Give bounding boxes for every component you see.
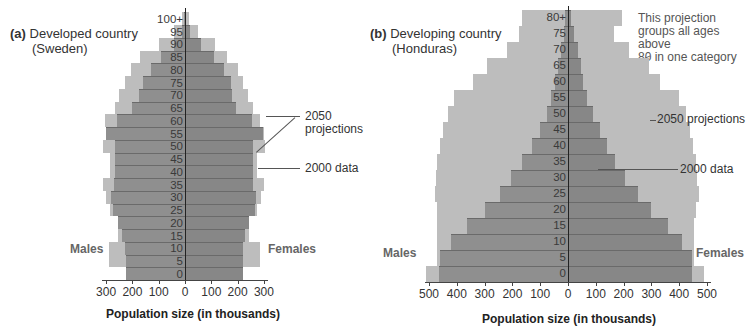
x-tick (159, 280, 160, 284)
age-label: 55 (153, 128, 183, 140)
leader-line-2050 (650, 120, 656, 121)
x-tick (707, 282, 708, 286)
age-label: 30 (153, 191, 183, 203)
bar-2000-female (185, 140, 253, 153)
panel-honduras: (b) Developing country (Honduras) This p… (380, 0, 752, 330)
age-label: 80+ (536, 11, 566, 23)
males-label: Males (70, 242, 103, 256)
age-label: 25 (536, 187, 566, 199)
bar-2000-female (185, 204, 255, 217)
panel-sweden: (a) Developed country (Sweden) 051015202… (0, 0, 380, 330)
bar-2000-female (185, 191, 256, 204)
age-label: 70 (153, 89, 183, 101)
x-tick (132, 280, 133, 284)
age-label: 40 (153, 166, 183, 178)
males-label: Males (383, 246, 416, 260)
bar-2000-female (185, 178, 253, 191)
age-label: 30 (536, 171, 566, 183)
age-label: 60 (153, 115, 183, 127)
bar-2000-female (185, 153, 253, 166)
bar-2000-female (568, 122, 600, 138)
x-tick-label: 500 (692, 287, 722, 301)
x-axis-label: Population size (in thousands) (482, 312, 656, 326)
bar-2000-female (568, 234, 682, 250)
bar-2000-female (185, 89, 232, 102)
bar-2000-female (185, 127, 263, 140)
leader-line-2000 (598, 169, 678, 170)
age-label: 55 (536, 91, 566, 103)
bar-2000-female (185, 242, 243, 255)
age-label: 80 (153, 64, 183, 76)
x-tick-label: 300 (470, 287, 500, 301)
bar-2000-female (568, 90, 587, 106)
bar-2000-female (568, 266, 692, 282)
age-label: 70 (536, 43, 566, 55)
annotation-2000: 2000 data (680, 163, 733, 176)
age-label: 65 (536, 59, 566, 71)
x-tick (238, 280, 239, 284)
annotation-2000: 2000 data (305, 162, 358, 175)
age-label: 5 (536, 251, 566, 263)
x-tick-label: 200 (609, 287, 639, 301)
bar-2000-female (568, 106, 593, 122)
x-tick (596, 282, 597, 286)
x-tick (429, 282, 430, 286)
females-label: Females (696, 246, 744, 260)
bar-2000-female (185, 255, 243, 268)
x-tick (651, 282, 652, 286)
bar-2000-female (568, 58, 581, 74)
age-label: 15 (153, 230, 183, 242)
x-tick (485, 282, 486, 286)
bar-2000-female (185, 229, 245, 242)
x-tick-label: 200 (497, 287, 527, 301)
bar-2050-female (568, 26, 614, 42)
age-label: 45 (153, 153, 183, 165)
x-tick-label: 500 (414, 287, 444, 301)
x-tick (264, 280, 265, 284)
center-axis-line (568, 6, 569, 282)
age-label: 90 (153, 38, 183, 50)
age-label: 95 (153, 26, 183, 38)
age-label: 50 (153, 140, 183, 152)
age-label: 50 (536, 107, 566, 119)
females-label: Females (268, 242, 316, 256)
bar-2000-female (568, 154, 615, 170)
bar-2000-female (185, 38, 201, 51)
annotation-2050-line1: 2050 (305, 109, 332, 123)
x-tick (540, 282, 541, 286)
bar-2000-female (185, 216, 249, 229)
center-axis-line (185, 8, 186, 280)
annotation-2050: 2050 projections (305, 110, 363, 136)
age-label: 25 (153, 204, 183, 216)
x-tick-label: 0 (553, 287, 583, 301)
x-tick-label: 100 (525, 287, 555, 301)
age-label: 35 (536, 155, 566, 167)
x-tick-label: 300 (249, 285, 279, 299)
x-tick (457, 282, 458, 286)
age-label: 60 (536, 75, 566, 87)
x-tick (679, 282, 680, 286)
x-tick (106, 280, 107, 284)
age-label: 45 (536, 123, 566, 135)
bar-2000-female (185, 114, 252, 127)
age-label: 0 (536, 267, 566, 279)
bar-2000-female (568, 170, 625, 186)
age-label: 20 (153, 217, 183, 229)
leader-line-2000 (258, 168, 300, 169)
x-axis-label: Population size (in thousands) (106, 307, 280, 321)
x-tick (185, 280, 186, 284)
x-tick-label: 400 (664, 287, 694, 301)
x-tick (568, 282, 569, 286)
bar-2000-female (185, 267, 243, 280)
x-tick (211, 280, 212, 284)
age-label: 10 (536, 235, 566, 247)
bar-2050-female (568, 10, 622, 26)
bar-2000-female (185, 102, 236, 115)
bar-2000-female (185, 51, 214, 64)
age-label: 20 (536, 203, 566, 215)
bar-2000-female (185, 165, 253, 178)
age-label: 10 (153, 242, 183, 254)
annotation-2050: 2050 projections (657, 113, 745, 126)
x-tick-label: 400 (442, 287, 472, 301)
age-label: 15 (536, 219, 566, 231)
